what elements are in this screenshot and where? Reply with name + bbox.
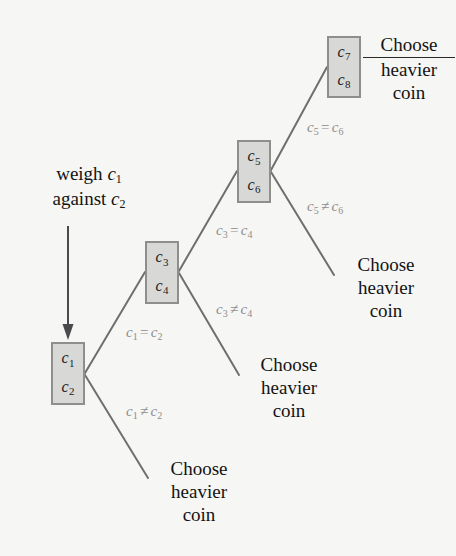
edge-label-c1-equals-c2: c1=c2 [126,324,163,342]
weigh-instruction-line2: against c2 [29,187,149,212]
edge-label-c5-equals-c6: c5=c6 [307,119,344,137]
decision-node-c3-c4[interactable]: c3 c4 [145,241,179,304]
weigh-instruction-line1: weigh c1 [29,162,149,187]
decision-node-c7-c8[interactable]: c7 c8 [327,36,361,98]
node-c3-label: c3 [155,249,168,267]
weigh-instruction-annotation: weigh c1 against c2 [29,162,149,212]
leaf-middle-line3: coin [241,399,337,422]
leaf-choose-heavier-coin-right: Choose heavier coin [338,253,434,323]
edge-c1c2-to-c3c4 [85,272,145,373]
edge-label-c5-not-equals-c6: c5≠c6 [307,198,344,216]
edge-c5c6-to-leaf-right [271,172,334,275]
node-c7-label: c7 [337,44,350,62]
edge-c3c4-to-leaf-middle [179,273,239,375]
annotation-arrow-head [63,324,74,340]
decision-tree-diagram: c1 c2 c3 c4 c5 c6 c7 c8 c1=c2 c1≠c2 [0,0,456,556]
node-c2-label: c2 [61,379,74,397]
decision-node-c1-c2[interactable]: c1 c2 [51,342,85,405]
leaf-choose-heavier-coin-bottom: Choose heavier coin [151,457,247,527]
edge-label-c1-not-equals-c2: c1≠c2 [126,403,163,421]
node-c4-label: c4 [155,278,168,296]
leaf-right-line2: heavier [338,276,434,299]
decision-node-c5-c6[interactable]: c5 c6 [237,140,271,203]
node-c1-label: c1 [61,350,74,368]
node-c8-label: c8 [337,72,350,90]
edge-c3c4-to-c5c6 [179,171,237,271]
leaf-bottom-line2: heavier [151,480,247,503]
leaf-right-line1: Choose [338,253,434,276]
edge-label-c3-equals-c4: c3=c4 [216,222,253,240]
leaf-middle-line2: heavier [241,376,337,399]
node-c5-label: c5 [247,148,260,166]
edge-c1c2-to-leaf-bottom [85,375,148,478]
leaf-choose-heavier-coin-top: Choose heavier coin [363,33,455,105]
leaf-right-line3: coin [338,299,434,322]
leaf-bottom-line1: Choose [151,457,247,480]
edge-label-c3-not-equals-c4: c3≠c4 [216,301,253,319]
node-c6-label: c6 [247,177,260,195]
leaf-top-line2: heavier [381,59,437,80]
leaf-top-line3: coin [393,82,426,103]
leaf-bottom-line3: coin [151,503,247,526]
leaf-middle-line1: Choose [241,353,337,376]
leaf-choose-heavier-coin-middle: Choose heavier coin [241,353,337,423]
leaf-top-line1: Choose [363,33,455,58]
